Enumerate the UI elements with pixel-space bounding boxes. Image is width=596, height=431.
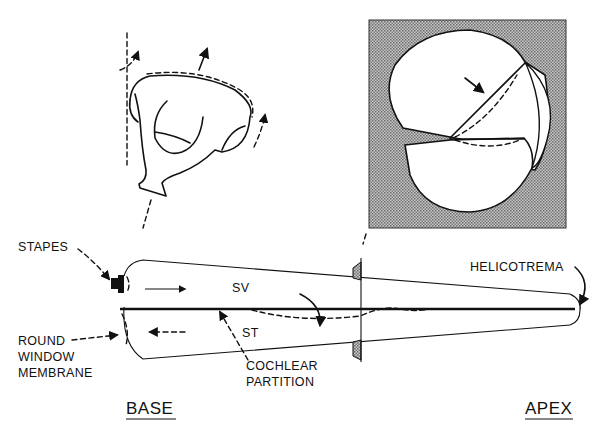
label-partition: PARTITION xyxy=(246,375,314,389)
label-helicotrema: HELICOTREMA xyxy=(470,260,564,274)
stapes-footplate-outline xyxy=(130,75,251,196)
leader-dashed-line xyxy=(363,234,366,244)
label-sv: SV xyxy=(232,281,250,295)
label-membrane: MEMBRANE xyxy=(18,366,93,380)
stapes-inset-drawing xyxy=(120,33,265,228)
stapes-arch xyxy=(155,101,204,153)
label-round: ROUND xyxy=(18,334,65,348)
label-window: WINDOW xyxy=(18,350,75,364)
label-base: BASE xyxy=(126,399,173,418)
cochlea-diagram: STAPES SV ST ROUND WINDOW MEMBRANE COCHL… xyxy=(0,0,596,431)
label-stapes: STAPES xyxy=(18,240,68,254)
label-st: ST xyxy=(242,326,259,340)
label-cochlear: COCHLEAR xyxy=(246,359,318,373)
motion-arrow-icon xyxy=(120,52,138,70)
leader-dashed-line xyxy=(143,200,151,228)
stapes-footplate xyxy=(111,278,119,289)
label-apex: APEX xyxy=(525,399,572,418)
scala-tympani-wall xyxy=(124,307,570,359)
cross-section-inset xyxy=(363,20,566,244)
round-window-leader xyxy=(72,335,117,340)
motion-arrow-icon xyxy=(254,115,265,147)
stapes-leader xyxy=(78,249,109,279)
displaced-outline xyxy=(147,72,253,117)
motion-arrow-icon xyxy=(199,49,207,70)
